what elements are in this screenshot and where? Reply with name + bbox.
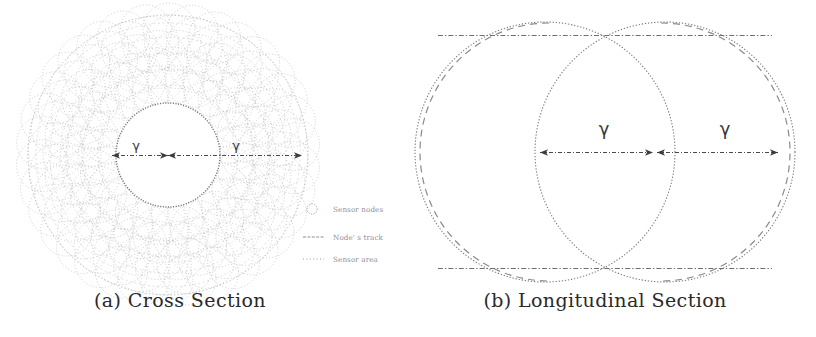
legend-label-node-track: Node' s track	[333, 233, 384, 242]
caption-cross-section: (a) Cross Section	[94, 289, 266, 311]
gamma-label-outer-a: γ	[232, 138, 240, 153]
gamma-label-left-b: γ	[599, 118, 610, 139]
gamma-label-inner-a: γ	[132, 138, 140, 153]
caption-longitudinal-section: (b) Longitudinal Section	[483, 289, 726, 311]
legend-label-sensor-area: Sensor area	[333, 255, 379, 264]
figure-sensor-coverage: γ γ (a) Cross Section Sensor nodes Node'…	[0, 0, 816, 337]
gamma-label-right-b: γ	[720, 118, 731, 139]
legend-label-sensor-nodes: Sensor nodes	[333, 205, 383, 214]
